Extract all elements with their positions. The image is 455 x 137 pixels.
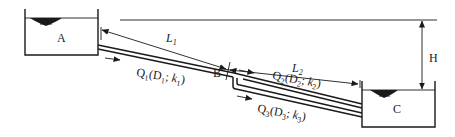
- water-level-icon: [370, 90, 398, 98]
- reservoir-c-label: C: [393, 102, 401, 116]
- dimension-l1-label: L1: [165, 31, 177, 47]
- pipe-1-label: Q1(D1; k1): [135, 65, 186, 88]
- pipe-3-flow-arrow: [237, 96, 252, 99]
- water-level-icon: [30, 18, 62, 26]
- pipe-3-label: Q3(D3; k3): [256, 101, 307, 125]
- reservoir-a: A: [25, 9, 98, 55]
- dimension-h: H: [422, 21, 438, 89]
- reservoir-c: C: [362, 81, 435, 127]
- dimension-h-label: H: [429, 51, 438, 65]
- reservoir-a-label: A: [57, 31, 66, 45]
- pipe-1-flow-arrow: [105, 58, 120, 60]
- pipe-network-diagram: A C H L1 B L2: [0, 0, 455, 137]
